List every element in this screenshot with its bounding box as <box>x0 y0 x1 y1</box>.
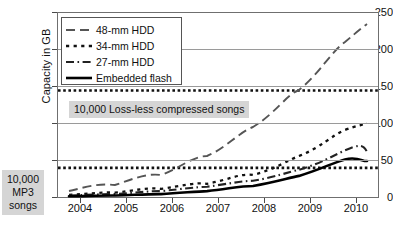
gridline-50 <box>58 160 378 161</box>
annotation-mp3-line3: songs <box>4 199 42 212</box>
legend-swatch-fine-dash-icon <box>66 41 92 51</box>
legend-item-27mm-hdd: 27-mm HDD <box>66 54 181 70</box>
legend-item-48mm-hdd: 48-mm HDD <box>66 22 181 38</box>
x-tick-label-2010: 2010 <box>333 202 379 214</box>
legend-swatch-dash-dot-icon <box>66 57 92 67</box>
annotation-mp3-songs: 10,000 MP3 songs <box>2 170 44 215</box>
plot-area: 48-mm HDD 34-mm HDD 27-mm HDD Embedded f… <box>57 12 379 198</box>
legend-item-34mm-hdd: 34-mm HDD <box>66 38 181 54</box>
annotation-mp3-line1: 10,000 <box>4 173 42 186</box>
capacity-line-chart: Capacity in GB 250 200 150 100 50 0 <box>0 0 393 233</box>
legend-swatch-long-dash-icon <box>66 25 92 35</box>
x-tick-label-2004: 2004 <box>57 202 103 214</box>
y-axis-title: Capacity in GB <box>40 6 52 126</box>
chart-legend: 48-mm HDD 34-mm HDD 27-mm HDD Embedded f… <box>61 17 182 85</box>
legend-label-embedded-flash: Embedded flash <box>96 72 172 84</box>
legend-label-27mm-hdd: 27-mm HDD <box>96 56 154 68</box>
series-line-embedded-flash <box>69 158 367 196</box>
x-tick-label-2008: 2008 <box>241 202 287 214</box>
x-tick-label-2006: 2006 <box>149 202 195 214</box>
legend-item-embedded-flash: Embedded flash <box>66 70 181 86</box>
x-tick-label-2005: 2005 <box>103 202 149 214</box>
annotation-lossless-songs: 10,000 Loss-less compressed songs <box>69 101 249 118</box>
legend-swatch-solid-icon <box>66 73 92 83</box>
legend-label-34mm-hdd: 34-mm HDD <box>96 40 154 52</box>
x-tick-label-2009: 2009 <box>287 202 333 214</box>
gridline-100 <box>58 123 378 124</box>
annotation-mp3-line2: MP3 <box>4 186 42 199</box>
legend-label-48mm-hdd: 48-mm HDD <box>96 24 154 36</box>
gridline-150 <box>58 86 378 87</box>
series-line-27mm-hdd <box>69 146 367 196</box>
x-tick-label-2007: 2007 <box>195 202 241 214</box>
